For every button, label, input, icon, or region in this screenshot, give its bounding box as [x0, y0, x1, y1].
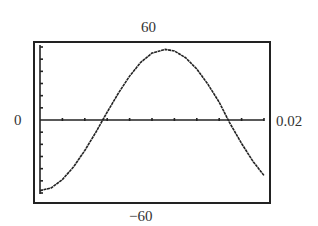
x-min-label: 0 — [14, 113, 22, 128]
x-max-label: 0.02 — [276, 114, 302, 129]
y-max-label: 60 — [141, 20, 156, 35]
y-min-label: −60 — [129, 209, 152, 224]
chart-svg — [0, 0, 318, 226]
plot-frame — [34, 42, 270, 203]
axes — [40, 45, 264, 194]
